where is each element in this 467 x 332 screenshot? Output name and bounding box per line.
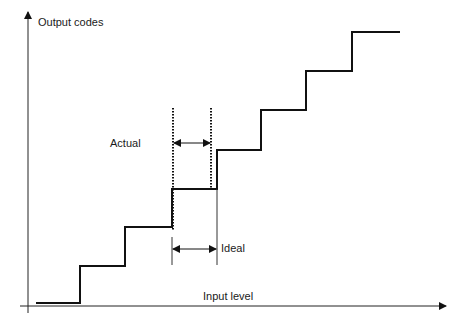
y-axis-label: Output codes — [38, 17, 103, 28]
x-axis-label: Input level — [203, 291, 253, 302]
staircase-transfer-line — [36, 32, 400, 303]
actual-label: Actual — [110, 138, 141, 149]
ideal-label: Ideal — [221, 243, 245, 254]
transfer-diagram — [0, 0, 467, 332]
